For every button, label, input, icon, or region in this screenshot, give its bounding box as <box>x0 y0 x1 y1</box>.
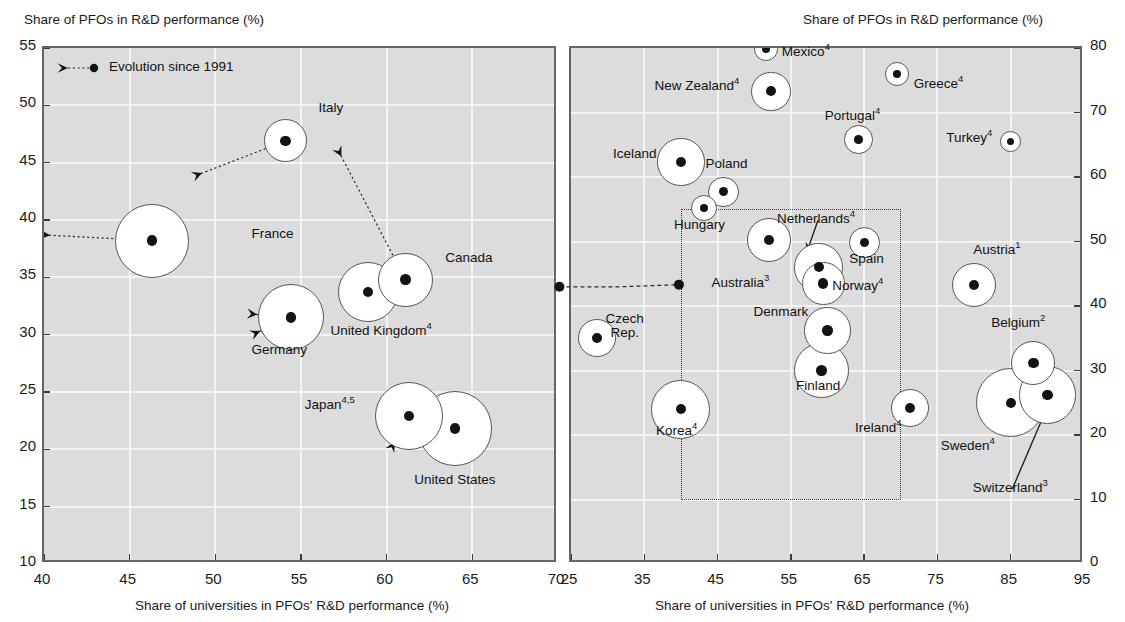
bubble-label-poland: Poland <box>657 157 797 172</box>
legend-label: Evolution since 1991 <box>109 59 234 74</box>
oecd-total-marker-left[interactable] <box>554 282 564 292</box>
bubble-label-new-zealand: New Zealand4 <box>0 76 743 93</box>
bubble-label-united-kingdom: United Kingdom4 <box>330 321 431 338</box>
bubble-label-portugal: Portugal4 <box>783 106 923 123</box>
bubble-label-italy: Italy <box>318 101 343 116</box>
bubble-label-finland: Finland <box>748 379 888 394</box>
bubble-label-denmark: Denmark <box>711 305 851 320</box>
panel-link-connector <box>0 0 1125 622</box>
bubble-label-mexico: Mexico4 <box>782 42 830 59</box>
bubble-label-korea: Korea4 <box>607 421 747 438</box>
bubble-label-greece: Greece4 <box>914 74 964 91</box>
bubble-label-sweden: Sweden4 <box>898 436 1038 453</box>
bubble-label-norway: Norway4 <box>788 276 928 293</box>
bubble-label-netherlands: Netherlands4 <box>746 209 886 226</box>
bubble-label-switzerland: Switzerland3 <box>940 478 1080 495</box>
bubble-label-united-states: United States <box>414 473 495 488</box>
bubble-label-iceland: Iceland <box>0 147 661 162</box>
bubble-label-belgium: Belgium2 <box>948 313 1088 330</box>
bubble-label-austria: Austria1 <box>927 240 1067 257</box>
legend-arrowhead-icon <box>58 63 69 73</box>
bubble-label-france: France <box>252 227 294 242</box>
bubble-label-czech-rep: CzechRep. <box>599 312 651 341</box>
bubble-label-japan: Japan4,5 <box>305 395 355 412</box>
figure-root: Share of PFOs in R&D performance (%) Sha… <box>0 0 1125 622</box>
bubble-label-canada: Canada <box>445 251 492 266</box>
oecd-total-link-line <box>559 285 679 287</box>
legend-dot-marker <box>90 64 98 72</box>
bubble-label-turkey: Turkey4 <box>0 128 996 145</box>
bubble-label-ireland: Ireland4 <box>808 418 948 435</box>
bubble-label-germany: Germany <box>252 343 308 358</box>
bubble-label-spain: Spain <box>797 252 937 267</box>
